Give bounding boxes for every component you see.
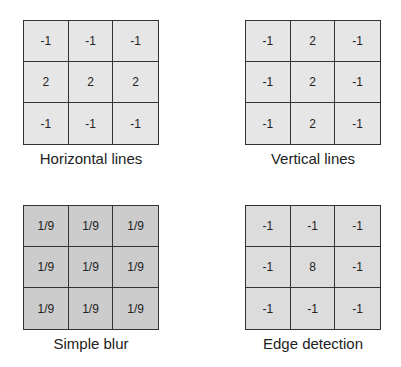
kernel-cell: 8: [291, 247, 336, 288]
kernel-cell: 1/9: [113, 288, 158, 329]
kernel-caption: Simple blur: [23, 335, 159, 352]
kernel-cell: -1: [69, 21, 114, 62]
kernel-cell: -1: [69, 103, 114, 144]
kernel-grid: 1/91/91/91/91/91/91/91/91/9: [23, 205, 159, 330]
kernel-cell: -1: [246, 62, 291, 103]
kernel-simple-blur: 1/91/91/91/91/91/91/91/91/9 Simple blur: [23, 205, 159, 352]
kernel-cell: -1: [291, 288, 336, 329]
kernel-cell: -1: [246, 206, 291, 247]
kernel-cell: -1: [246, 21, 291, 62]
kernel-cell: 1/9: [24, 288, 69, 329]
kernel-cell: 1/9: [24, 247, 69, 288]
kernel-cell: -1: [246, 247, 291, 288]
kernel-horizontal-lines: -1-1-1222-1-1-1 Horizontal lines: [23, 20, 159, 167]
kernel-cell: 1/9: [113, 247, 158, 288]
kernel-cell: 2: [291, 62, 336, 103]
kernel-edge-detection: -1-1-1-18-1-1-1-1 Edge detection: [245, 205, 381, 352]
kernel-vertical-lines: -12-1-12-1-12-1 Vertical lines: [245, 20, 381, 167]
kernel-cell: 1/9: [113, 206, 158, 247]
kernel-cell: 1/9: [24, 206, 69, 247]
kernel-caption: Vertical lines: [245, 150, 381, 167]
kernel-grid: -1-1-1222-1-1-1: [23, 20, 159, 145]
kernel-cell: -1: [335, 103, 380, 144]
kernel-cell: 1/9: [69, 288, 114, 329]
kernel-cell: -1: [24, 21, 69, 62]
kernel-cell: -1: [113, 21, 158, 62]
kernel-cell: -1: [246, 288, 291, 329]
kernel-cell: -1: [335, 21, 380, 62]
kernel-cell: 1/9: [69, 247, 114, 288]
kernel-caption: Horizontal lines: [23, 150, 159, 167]
kernel-cell: 2: [24, 62, 69, 103]
kernel-grid: -1-1-1-18-1-1-1-1: [245, 205, 381, 330]
kernel-cell: -1: [335, 206, 380, 247]
kernel-cell: 2: [291, 21, 336, 62]
kernel-cell: -1: [24, 103, 69, 144]
kernel-caption: Edge detection: [245, 335, 381, 352]
kernel-cell: 2: [69, 62, 114, 103]
kernel-cell: 2: [113, 62, 158, 103]
kernel-cell: 1/9: [69, 206, 114, 247]
kernel-cell: -1: [335, 62, 380, 103]
kernel-cell: -1: [335, 288, 380, 329]
kernel-cell: 2: [291, 103, 336, 144]
kernel-cell: -1: [291, 206, 336, 247]
kernel-grid: -12-1-12-1-12-1: [245, 20, 381, 145]
kernel-cell: -1: [335, 247, 380, 288]
kernel-cell: -1: [113, 103, 158, 144]
kernel-cell: -1: [246, 103, 291, 144]
